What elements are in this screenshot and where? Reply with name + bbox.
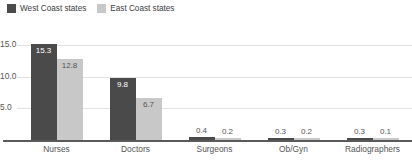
bar-value-label: 0.3 (354, 127, 365, 136)
plot-area: 5.010.015.0 15.312.89.86.70.40.20.30.20.… (17, 36, 412, 140)
x-axis-tick-label: Ob/Gyn (279, 144, 308, 154)
bar-rect (57, 59, 83, 140)
bar-value-label: 0.1 (380, 127, 391, 136)
legend-item[interactable]: East Coast states (97, 4, 174, 13)
bar-value-label: 6.7 (143, 100, 154, 109)
bar-value-label: 0.2 (222, 127, 233, 136)
bar-group: 15.312.8 (31, 36, 83, 140)
bar[interactable]: 0.1 (373, 36, 399, 140)
bar[interactable]: 15.3 (31, 36, 57, 140)
bar-value-label: 9.8 (117, 80, 128, 89)
bar[interactable]: 12.8 (57, 36, 83, 140)
bar[interactable]: 0.4 (189, 36, 215, 140)
bar-group: 0.30.2 (268, 36, 320, 140)
chart-legend: West Coast statesEast Coast states (7, 3, 174, 14)
bar[interactable]: 6.7 (136, 36, 162, 140)
bar[interactable]: 0.3 (347, 36, 373, 140)
legend-item[interactable]: West Coast states (7, 4, 86, 13)
legend-swatch-icon (97, 4, 106, 13)
legend-label: West Coast states (20, 4, 86, 13)
bar-value-label: 0.3 (275, 127, 286, 136)
x-axis-tick-label: Doctors (121, 144, 150, 154)
bar-rect (31, 44, 57, 140)
bar-group: 0.40.2 (189, 36, 241, 140)
bar[interactable]: 0.2 (215, 36, 241, 140)
bar-value-label: 0.4 (196, 126, 207, 135)
bar[interactable]: 0.2 (294, 36, 320, 140)
bar-value-label: 0.2 (301, 127, 312, 136)
legend-swatch-icon (7, 4, 16, 13)
x-axis-labels: NursesDoctorsSurgeonsOb/GynRadiographers (17, 144, 412, 158)
bar[interactable]: 9.8 (110, 36, 136, 140)
x-axis-tick-label: Nurses (43, 144, 70, 154)
bar-value-label: 15.3 (36, 46, 52, 55)
bar-group: 9.86.7 (110, 36, 162, 140)
bar-value-label: 12.8 (62, 61, 78, 70)
legend-label: East Coast states (110, 4, 174, 13)
bar-group: 0.30.1 (347, 36, 399, 140)
bar-chart: West Coast statesEast Coast states 5.010… (0, 0, 412, 163)
bar-series-container: 15.312.89.86.70.40.20.30.20.30.1 (17, 36, 412, 140)
x-axis-tick-label: Surgeons (197, 144, 233, 154)
x-axis-line (3, 140, 412, 142)
x-axis-tick-label: Radiographers (345, 144, 400, 154)
bar[interactable]: 0.3 (268, 36, 294, 140)
